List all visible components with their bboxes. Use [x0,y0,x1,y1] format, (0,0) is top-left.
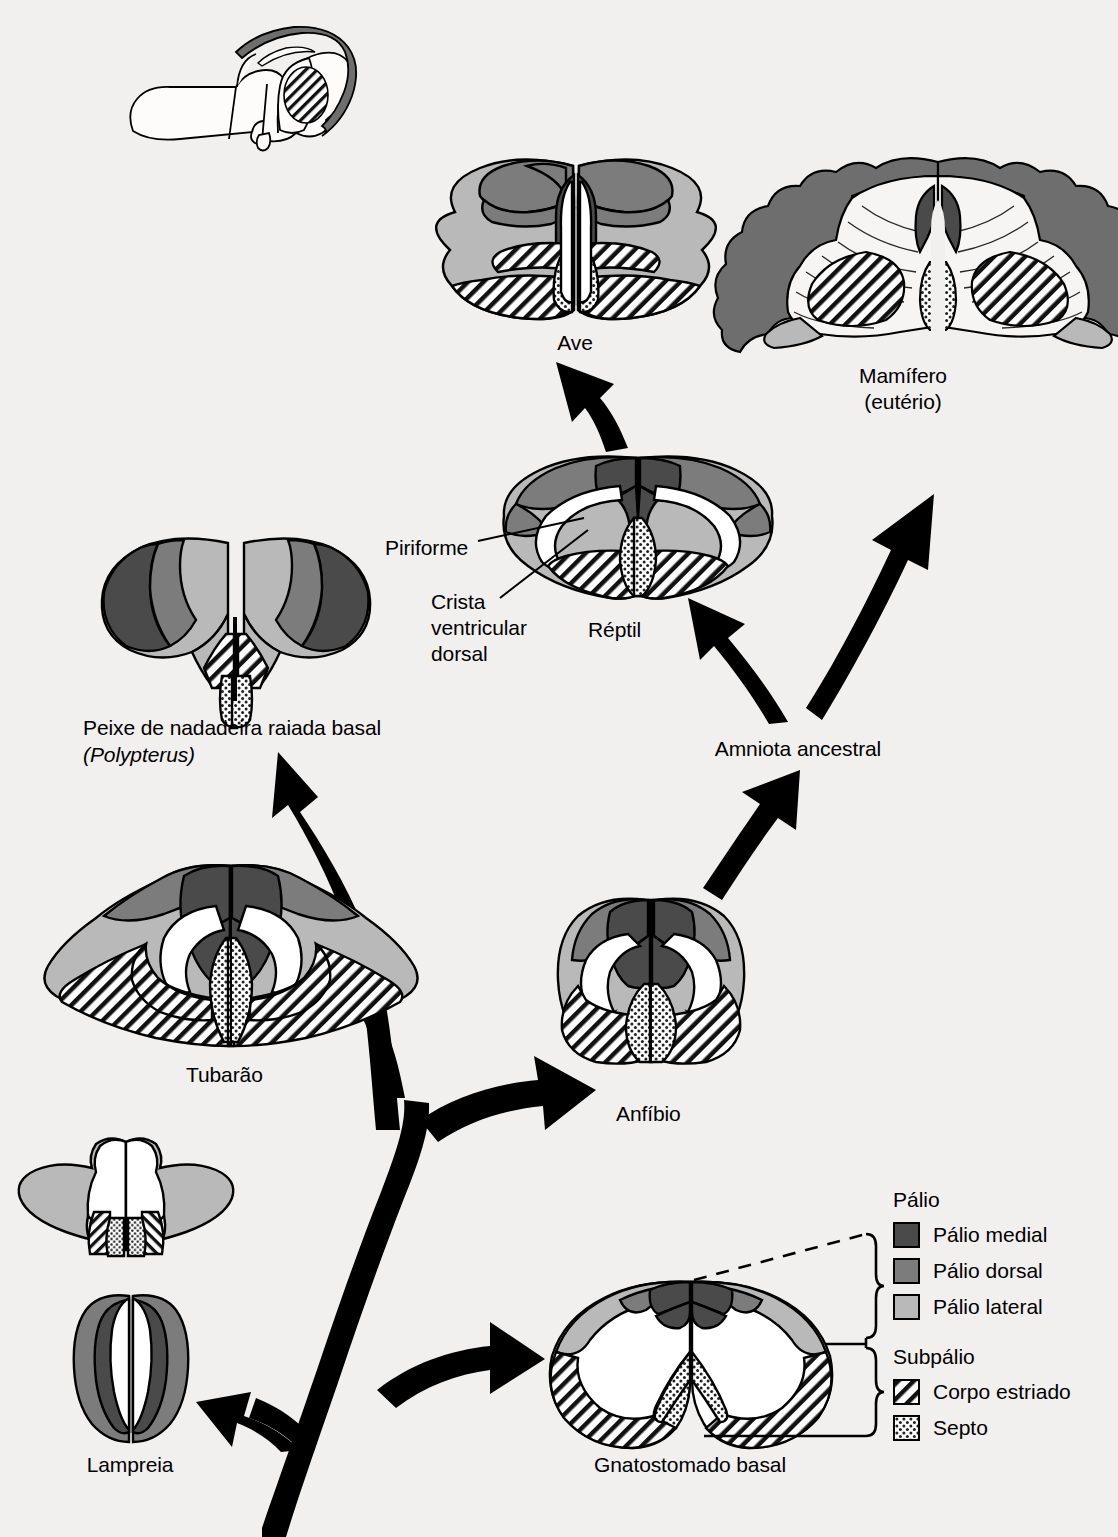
legend-label-palio-medial: Pálio medial [933,1223,1047,1247]
swatch-palio-lateral [893,1294,920,1320]
swatch-septo [893,1415,920,1441]
legend-spacer [893,1327,1071,1345]
legend: Pálio Pálio medial Pálio dorsal Pálio la… [893,1188,1071,1448]
legend-label-palio-lateral: Pálio lateral [933,1295,1043,1319]
label-anfibio: Anfíbio [616,1101,681,1127]
brain-section-polypterus [102,539,370,728]
legend-item-palio-medial: Pálio medial [893,1219,1071,1251]
brain-orientation-sketch [130,53,352,151]
label-mamifero: Mamífero [859,363,947,389]
brain-section-tubarao [44,865,417,1046]
label-reptil: Réptil [588,617,641,643]
arrow-anfibio-to-amniota [703,770,800,900]
legend-item-corpo-estriado: Corpo estriado [893,1376,1071,1408]
label-gnatostomado: Gnatostomado basal [594,1452,786,1478]
swatch-corpo-estriado [893,1379,920,1405]
arrow-to-gnatostomado [377,1322,545,1408]
legend-label-palio-dorsal: Pálio dorsal [933,1259,1043,1283]
arrow-to-anfibio [420,1056,596,1142]
brain-section-mamifero [714,158,1118,352]
arrow-reptil-to-ave [556,362,628,452]
brain-section-ave [436,159,716,319]
legend-label-corpo-estriado: Corpo estriado [933,1380,1071,1404]
brain-section-unlabeled-basal [19,1138,234,1256]
label-tubarao: Tubarão [186,1062,263,1088]
brain-section-gnatostomado [550,1282,832,1448]
arrow-amniota-to-reptil [688,598,788,724]
figure-canvas: Ave Mamífero (eutério) Réptil Peixe de n… [0,0,1118,1537]
swatch-palio-dorsal [893,1258,920,1284]
legend-item-palio-dorsal: Pálio dorsal [893,1255,1071,1287]
brain-section-anfibio [558,899,744,1064]
annotation-crista-1: Crista [431,589,485,615]
label-lampreia: Lampreia [87,1452,174,1478]
legend-item-septo: Septo [893,1412,1071,1444]
label-ave: Ave [557,330,593,356]
legend-group-title-palio: Pálio [893,1188,1071,1212]
annotation-crista-3: dorsal [431,641,488,667]
label-polypterus: Peixe de nadadeira raiada basal [83,715,381,741]
label-amniota-ancestral: Amniota ancestral [715,736,881,762]
legend-item-palio-lateral: Pálio lateral [893,1291,1071,1323]
swatch-palio-medial [893,1222,920,1248]
label-mamifero-sub: (eutério) [864,389,941,415]
arrow-amniota-to-mamifero [806,494,934,720]
legend-group-title-subpalio: Subpálio [893,1345,1071,1369]
annotation-piriforme: Piriforme [385,535,468,561]
label-polypterus-genus: (Polypterus) [83,742,195,768]
legend-label-septo: Septo [933,1416,988,1440]
brain-section-lampreia [74,1295,189,1442]
arrow-trunk [262,1100,429,1537]
annotation-crista-2: ventricular [431,615,527,641]
